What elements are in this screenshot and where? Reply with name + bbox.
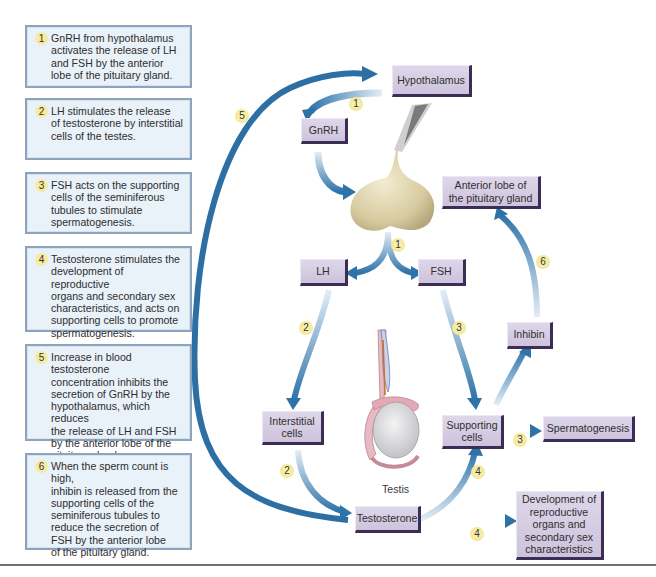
node-interstitial-cells: Interstitial cells (262, 411, 324, 445)
arrow-interstitial-to-testosterone (298, 450, 352, 520)
step-text: LH stimulates the release of testosteron… (34, 105, 184, 142)
badge-step-3-lower: 3 (513, 433, 527, 447)
step-1-box: 1 GnRH from hypothalamus activates the r… (25, 25, 192, 88)
step-number-badge: 4 (35, 253, 48, 266)
bottom-divider (0, 564, 656, 566)
node-anterior-pituitary: Anterior lobe of the pituitary gland (442, 176, 541, 209)
step-number-badge: 1 (35, 32, 48, 45)
arrow-testosterone-to-supporting (418, 442, 483, 520)
node-spermatogenesis: Spermatogenesis (543, 416, 635, 442)
step-number-badge: 6 (35, 460, 48, 473)
step-3-box: 3 FSH acts on the supporting cells of th… (25, 172, 192, 234)
node-supporting-cells: Supporting cells (442, 415, 504, 449)
node-inhibin: Inhibin (507, 322, 553, 349)
node-development: Development of reproductive organs and s… (516, 491, 604, 560)
node-testosterone: Testosterone (355, 506, 421, 533)
node-lh: LH (300, 259, 348, 286)
step-4-box: 4 Testosterone stimulates the developmen… (25, 246, 192, 332)
testis-illustration (365, 330, 419, 467)
node-gnrh: GnRH (301, 118, 348, 144)
arrow-lh-to-interstitial (286, 290, 329, 410)
badge-step-5: 5 (235, 109, 249, 123)
step-text: Increase in blood testosterone concentra… (34, 351, 184, 462)
arrow-5-feedback (194, 66, 378, 520)
badge-step-3-upper: 3 (452, 321, 466, 335)
badge-step-1-top: 1 (349, 97, 363, 111)
arrow-fsh-to-supporting (443, 290, 482, 410)
node-hypothalamus: Hypothalamus (392, 65, 472, 97)
step-text: Testosterone stimulates the development … (34, 253, 184, 339)
step-number-badge: 5 (35, 351, 48, 364)
step-text: When the sperm count is high, inhibin is… (34, 460, 184, 558)
step-6-box: 6 When the sperm count is high, inhibin … (25, 453, 192, 550)
step-number-badge: 3 (35, 179, 48, 192)
step-text: FSH acts on the supporting cells of the … (34, 179, 184, 228)
node-fsh: FSH (418, 259, 466, 286)
badge-step-2-upper: 2 (299, 321, 313, 335)
arrow-gnrh-to-pituitary (318, 152, 356, 200)
arrow-supporting-to-inhibin (496, 344, 531, 405)
step-2-box: 2 LH stimulates the release of testoster… (25, 98, 192, 160)
arrow-inhibin-to-pituitary (494, 207, 537, 317)
badge-step-1-mid: 1 (391, 238, 405, 252)
step-number-badge: 2 (35, 105, 48, 118)
pituitary-gland-illustration (351, 103, 435, 231)
testis-label: Testis (382, 483, 409, 495)
badge-step-4-lower: 4 (470, 527, 484, 541)
arrow-testosterone-to-development (446, 514, 517, 528)
step-5-box: 5 Increase in blood testosterone concent… (25, 344, 192, 441)
badge-step-2-lower: 2 (280, 464, 294, 478)
badge-step-4-upper: 4 (471, 465, 485, 479)
badge-step-6: 6 (536, 255, 550, 269)
arrow-pituitary-to-lh-fsh (345, 232, 423, 280)
step-text: GnRH from hypothalamus activates the rel… (34, 32, 184, 81)
